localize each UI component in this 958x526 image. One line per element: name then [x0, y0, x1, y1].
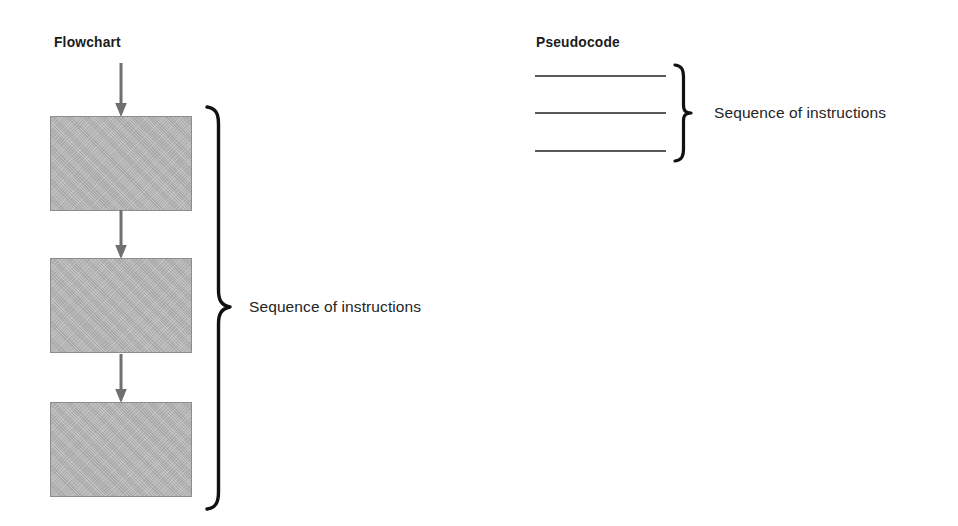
connector-down-arrow-icon-2: [114, 354, 128, 403]
flowchart-curly-brace-icon: [200, 104, 240, 512]
pseudocode-line-2: [535, 112, 666, 114]
process-box-2: [50, 258, 192, 353]
flowchart-caption: Sequence of instructions: [249, 298, 421, 316]
pseudocode-line-3: [535, 150, 666, 152]
pseudocode-line-1: [535, 75, 666, 77]
diagram-canvas: Flowchart Sequence of instructions Pse: [0, 0, 958, 526]
pseudocode-curly-brace-icon: [670, 62, 696, 164]
entry-down-arrow-icon: [114, 63, 128, 117]
flowchart-heading: Flowchart: [54, 33, 121, 50]
process-box-3: [50, 402, 192, 497]
pseudocode-heading: Pseudocode: [536, 33, 620, 50]
process-box-1: [50, 116, 192, 211]
connector-down-arrow-icon-1: [114, 210, 128, 259]
pseudocode-caption: Sequence of instructions: [714, 104, 886, 122]
